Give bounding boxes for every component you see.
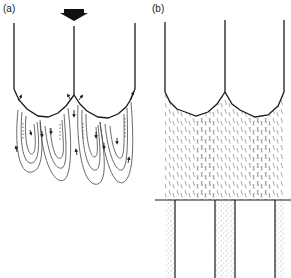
cell-walls-a xyxy=(14,23,135,118)
panel-a xyxy=(14,9,135,184)
diagram-canvas xyxy=(0,0,291,278)
hatched-region-b xyxy=(165,92,284,200)
flow-loops-a xyxy=(17,102,133,184)
panel-b xyxy=(155,20,291,278)
figure: (a) (b) xyxy=(0,0,291,278)
load-arrow-icon xyxy=(60,9,88,21)
stippled-bands xyxy=(166,201,285,278)
